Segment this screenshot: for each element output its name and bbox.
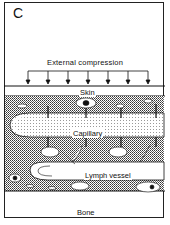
capillary-label: Capillary: [72, 129, 103, 138]
arrow-icon: [26, 71, 150, 84]
compression-arrows: [26, 71, 150, 84]
lymph-vessel-label: Lymph vessel: [84, 171, 132, 180]
skin-label: Skin: [79, 88, 96, 97]
tissue-diagram: [0, 0, 170, 225]
bone-label: Bone: [76, 208, 96, 217]
